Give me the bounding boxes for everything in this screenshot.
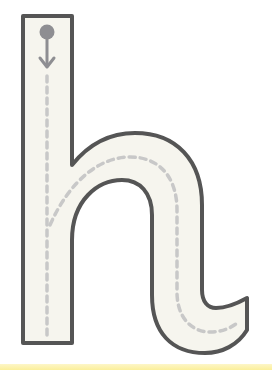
- letter-h-tracing: [0, 0, 272, 370]
- bottom-strip: [0, 364, 272, 370]
- letter-h-shape: [23, 16, 247, 353]
